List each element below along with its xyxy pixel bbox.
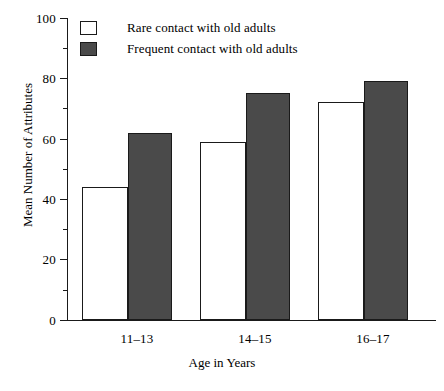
bar-rare-11-13 xyxy=(82,187,128,320)
y-tick-40 xyxy=(60,199,68,200)
y-tick-100 xyxy=(60,18,68,19)
y-tick-60 xyxy=(60,139,68,140)
y-tick-20 xyxy=(60,259,68,260)
x-tick-label-11-13: 11–13 xyxy=(82,332,192,346)
legend-label-rare: Rare contact with old adults xyxy=(127,21,276,35)
legend-item-rare: Rare contact with old adults xyxy=(80,17,298,38)
bar-frequent-11-13 xyxy=(128,133,172,320)
bar-rare-14-15 xyxy=(200,142,246,320)
bar-rare-16-17 xyxy=(318,102,364,320)
x-tick-label-16-17: 16–17 xyxy=(318,332,428,346)
x-tick-label-14-15: 14–15 xyxy=(200,332,310,346)
y-tick-0 xyxy=(60,320,68,321)
legend-swatch-rare-icon xyxy=(80,21,97,35)
legend-swatch-frequent-icon xyxy=(80,42,97,56)
plot-area xyxy=(68,18,436,320)
bar-frequent-14-15 xyxy=(246,93,290,320)
y-tick-80 xyxy=(60,78,68,79)
x-axis-line xyxy=(67,320,436,321)
x-axis-title: Age in Years xyxy=(0,356,444,370)
y-tick-label-100: 100 xyxy=(8,12,56,25)
bar-frequent-16-17 xyxy=(364,81,408,320)
chart-legend: Rare contact with old adults Frequent co… xyxy=(80,17,298,59)
y-axis-title: Mean Number of Attributes xyxy=(21,45,35,265)
bar-chart: 0 20 40 60 80 100 11–13 14–15 16–17 Age … xyxy=(0,0,444,391)
legend-label-frequent: Frequent contact with old adults xyxy=(127,42,298,56)
y-tick-label-0: 0 xyxy=(8,314,56,327)
legend-item-frequent: Frequent contact with old adults xyxy=(80,38,298,59)
